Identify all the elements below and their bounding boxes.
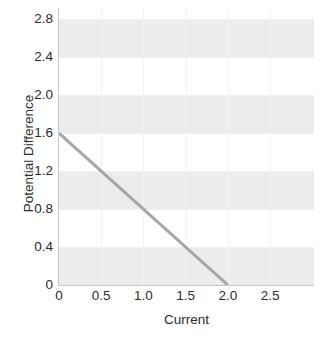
x-tick-label: 1.0 xyxy=(134,289,153,303)
series-polyline xyxy=(59,133,228,285)
x-tick-label: 0 xyxy=(55,289,63,303)
x-tick-label: 2.0 xyxy=(218,289,237,303)
y-tick-label: 0 xyxy=(5,278,53,292)
x-tick-label: 0.5 xyxy=(92,289,111,303)
series-line-chart xyxy=(59,8,314,285)
y-tick-label: 2.8 xyxy=(5,13,53,27)
x-axis-line xyxy=(58,285,314,286)
x-tick-label: 2.5 xyxy=(261,289,280,303)
chart-figure: 00.40.81.21.62.02.42.8 00.51.01.52.02.5 … xyxy=(0,0,323,345)
y-axis-line xyxy=(58,8,59,286)
plot-area xyxy=(59,8,314,285)
x-axis-title: Current xyxy=(59,312,314,327)
y-axis-title: Potential Difference xyxy=(21,64,36,244)
y-tick-label: 2.4 xyxy=(5,51,53,65)
x-tick-label: 1.5 xyxy=(176,289,195,303)
